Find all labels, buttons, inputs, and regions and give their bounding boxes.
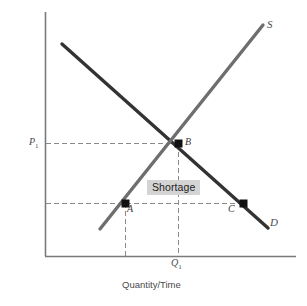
y-axis-title: Price [0, 138, 47, 152]
shortage-annotation: Shortage [147, 180, 200, 195]
point-marker-c [240, 200, 248, 208]
supply-demand-chart: Price Quantity/Time P1 Q1 S D A B C Shor… [0, 0, 307, 306]
chart-canvas [0, 0, 307, 306]
demand-curve-label: D [270, 216, 278, 228]
point-label-b: B [185, 136, 191, 147]
x-tick-label-q1: Q1 [171, 257, 182, 271]
y-tick-label-p1: P1 [29, 136, 39, 150]
point-marker-b [175, 140, 183, 148]
demand-curve [62, 44, 268, 228]
x-tick-label-q1-subscript: 1 [178, 263, 182, 271]
point-label-a: A [127, 203, 133, 214]
supply-curve-label: S [267, 18, 273, 30]
point-label-c: C [228, 203, 235, 214]
y-tick-label-p1-subscript: 1 [35, 142, 39, 150]
x-axis-title: Quantity/Time [122, 279, 181, 290]
supply-curve [100, 25, 263, 229]
